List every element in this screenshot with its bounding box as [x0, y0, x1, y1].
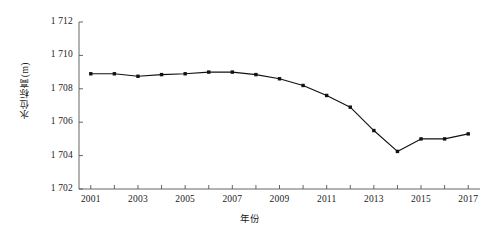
- data-point-marker: [349, 105, 352, 108]
- x-axis-tick-label: 2005: [165, 194, 205, 204]
- data-point-marker: [207, 70, 210, 73]
- data-point-marker: [396, 150, 399, 153]
- data-point-marker: [419, 137, 422, 140]
- x-axis-tick-label: 2011: [307, 194, 347, 204]
- y-axis-tick-label: 1 710: [29, 49, 73, 59]
- data-point-marker: [136, 75, 139, 78]
- x-axis-tick-label: 2017: [448, 194, 488, 204]
- x-axis-tick-label: 2009: [260, 194, 300, 204]
- data-point-marker: [113, 72, 116, 75]
- water-level-line-chart: 水位标高(m) 年份 1 7021 7041 7061 7081 7101 71…: [0, 0, 500, 241]
- data-point-marker: [467, 132, 470, 135]
- data-point-marker: [278, 77, 281, 80]
- x-axis-title: 年份: [0, 211, 500, 225]
- data-point-marker: [372, 129, 375, 132]
- x-axis-tick-label: 2001: [71, 194, 111, 204]
- data-point-marker: [254, 73, 257, 76]
- y-axis-tick-label: 1 702: [29, 183, 73, 193]
- plot-area: [0, 0, 500, 241]
- data-point-marker: [160, 73, 163, 76]
- data-line: [91, 72, 468, 151]
- data-point-marker: [325, 94, 328, 97]
- data-point-marker: [183, 72, 186, 75]
- x-axis-tick-label: 2003: [118, 194, 158, 204]
- data-point-marker: [89, 72, 92, 75]
- y-axis-tick-label: 1 712: [29, 16, 73, 26]
- y-axis-tick-label: 1 704: [29, 150, 73, 160]
- x-axis-tick-label: 2015: [401, 194, 441, 204]
- data-point-marker: [301, 84, 304, 87]
- y-axis-tick-label: 1 708: [29, 83, 73, 93]
- data-point-marker: [443, 137, 446, 140]
- data-point-marker: [231, 70, 234, 73]
- x-axis-tick-label: 2013: [354, 194, 394, 204]
- y-axis-tick-label: 1 706: [29, 116, 73, 126]
- x-axis-tick-label: 2007: [212, 194, 252, 204]
